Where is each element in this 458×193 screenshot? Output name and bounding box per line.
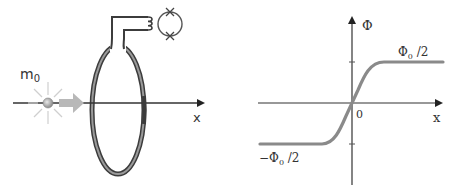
- y-axis-label: Φ: [362, 18, 373, 33]
- origin-label: 0: [356, 108, 363, 121]
- figure-canvas: m0 x Φ x 0 Φ0 /2 −Φ0 /2: [0, 0, 458, 193]
- pickup-loop-front: [144, 96, 145, 124]
- coupling-coil: [148, 17, 152, 30]
- monopole-particle-icon: [43, 98, 53, 108]
- x-axis-label: x: [433, 110, 441, 125]
- left-x-axis-label: x: [193, 110, 201, 125]
- left-panel: m0 x: [13, 8, 205, 174]
- upper-plateau-label: Φ0 /2: [398, 45, 428, 61]
- particle-label: m0: [20, 66, 40, 84]
- lower-plateau-label: −Φ0 /2: [259, 151, 300, 167]
- squid-ring-icon: [158, 8, 182, 40]
- left-x-axis: [13, 99, 205, 107]
- right-panel: Φ x 0 Φ0 /2 −Φ0 /2: [258, 16, 443, 185]
- motion-arrow-icon: [59, 93, 84, 113]
- pickup-loop: [92, 42, 144, 174]
